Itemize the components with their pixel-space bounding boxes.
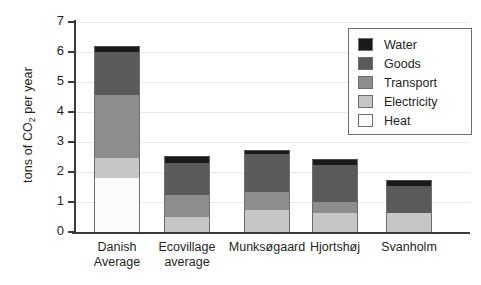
legend: WaterGoodsTransportElectricityHeat (348, 28, 472, 135)
legend-item-water[interactable]: Water (349, 35, 471, 54)
x-axis-line (72, 232, 470, 234)
legend-swatch-water (358, 38, 373, 51)
legend-item-goods[interactable]: Goods (349, 54, 471, 73)
bar-stack (312, 159, 358, 233)
y-axis-tick-label-text: 2 (36, 163, 64, 178)
bar-segment-electricity (244, 210, 290, 233)
y-axis-title-post: per year (21, 67, 35, 117)
y-axis-tick-label-text: 4 (36, 103, 64, 118)
bar-segment-transport (244, 192, 290, 210)
bar-segment-goods (312, 165, 358, 203)
bar-segment-transport (312, 202, 358, 213)
bar-stack (164, 156, 210, 233)
bar-segment-goods (386, 186, 432, 213)
y-axis-tick (68, 111, 74, 113)
y-axis-tick (68, 51, 74, 53)
bar-segment-transport (94, 95, 140, 158)
bar-segment-heat (94, 178, 140, 232)
y-axis-tick-label-text: 1 (36, 193, 64, 208)
co2-stacked-bar-chart: tons of CO2 per year 01234567 DanishAver… (0, 0, 481, 285)
bar-segment-goods (164, 163, 210, 195)
y-axis-tick-label-text: 6 (36, 43, 64, 58)
bar-stack (386, 180, 432, 233)
bar-segment-electricity (386, 213, 432, 233)
y-axis-tick-label-text: 3 (36, 133, 64, 148)
x-axis-label: Svanholm (359, 240, 459, 255)
y-axis-title-pre: tons of CO (21, 122, 35, 183)
legend-item-transport[interactable]: Transport (349, 73, 471, 92)
bar-segment-electricity (164, 217, 210, 232)
gridline (76, 22, 470, 23)
y-axis-title-subscript: 2 (27, 117, 37, 122)
x-axis-label-line: average (137, 255, 237, 270)
legend-swatch-goods (358, 57, 373, 70)
bar-segment-goods (94, 52, 140, 95)
legend-label: Heat (384, 114, 410, 128)
y-axis-tick (68, 231, 74, 233)
y-axis-tick-label-text: 0 (36, 223, 64, 238)
legend-rows-group: WaterGoodsTransportElectricityHeat (349, 35, 471, 130)
y-axis-tick (68, 171, 74, 173)
legend-label: Water (384, 38, 417, 52)
legend-swatch-transport (358, 76, 373, 89)
y-axis-tick (68, 81, 74, 83)
bar-segment-electricity (312, 213, 358, 233)
y-axis-tick (68, 141, 74, 143)
legend-item-electricity[interactable]: Electricity (349, 92, 471, 111)
y-axis-tick-label-text: 7 (36, 13, 64, 28)
legend-swatch-heat (358, 114, 373, 127)
y-axis-title: tons of CO2 per year (21, 25, 35, 225)
x-axis-label-line: Svanholm (359, 240, 459, 255)
bar-stack (244, 150, 290, 233)
bar-segment-transport (164, 195, 210, 218)
legend-item-heat[interactable]: Heat (349, 111, 471, 130)
bar-segment-goods (244, 154, 290, 192)
y-axis-tick-label-text: 5 (36, 73, 64, 88)
legend-label: Goods (384, 57, 421, 71)
y-axis-tick (68, 201, 74, 203)
bar-stack (94, 46, 140, 232)
legend-swatch-electricity (358, 95, 373, 108)
legend-label: Electricity (384, 95, 437, 109)
bar-segment-electricity (94, 158, 140, 178)
bar-segment-water (164, 156, 210, 164)
legend-label: Transport (384, 76, 437, 90)
y-axis-tick (68, 21, 74, 23)
